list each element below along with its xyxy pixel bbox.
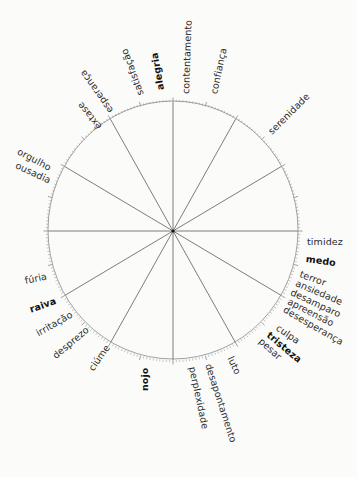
wheel-spoke: [111, 231, 174, 343]
rim-minor-tick: [60, 290, 62, 291]
rim-minor-tick: [295, 258, 297, 259]
rim-minor-tick: [137, 355, 138, 357]
rim-major-tick: [261, 322, 264, 325]
rim-minor-tick: [230, 346, 231, 348]
rim-minor-tick: [290, 277, 292, 278]
rim-minor-tick: [49, 258, 51, 259]
rim-minor-tick: [291, 274, 293, 275]
rim-minor-tick: [272, 310, 274, 311]
label-timidez: timidez: [307, 237, 343, 247]
wheel-spoke: [111, 119, 174, 231]
rim-minor-tick: [112, 344, 113, 346]
rim-minor-tick: [215, 353, 216, 355]
rim-minor-tick: [247, 335, 248, 337]
rim-minor-tick: [107, 341, 108, 343]
rim-minor-tick: [98, 335, 99, 337]
wheel-spoke: [173, 231, 236, 343]
rim-minor-tick: [76, 315, 78, 316]
rim-major-tick: [140, 356, 141, 360]
rim-minor-tick: [74, 312, 76, 313]
rim-major-tick: [281, 296, 285, 298]
rim-minor-tick: [66, 301, 68, 302]
rim-minor-tick: [212, 354, 213, 356]
rim-minor-tick: [54, 277, 56, 278]
rim-minor-tick: [274, 307, 276, 308]
wheel-spoke: [173, 231, 281, 296]
rim-minor-tick: [70, 307, 72, 308]
rim-minor-tick: [295, 261, 297, 262]
rim-minor-tick: [93, 331, 94, 333]
rim-minor-tick: [238, 341, 239, 343]
rim-minor-tick: [221, 350, 222, 352]
rim-minor-tick: [127, 351, 128, 353]
rim-minor-tick: [124, 350, 125, 352]
rim-minor-tick: [264, 320, 266, 322]
rim-minor-tick: [218, 351, 219, 353]
wheel-spoke: [173, 167, 281, 232]
rim-minor-tick: [224, 349, 225, 351]
rim-minor-tick: [72, 310, 74, 311]
rim-minor-tick: [131, 353, 132, 355]
rim-minor-tick: [287, 284, 289, 285]
rim-minor-tick: [254, 329, 255, 331]
rim-minor-tick: [244, 337, 245, 339]
rim-minor-tick: [101, 337, 102, 339]
rim-minor-tick: [209, 355, 210, 357]
rim-major-tick: [61, 296, 65, 298]
rim-minor-tick: [252, 331, 253, 333]
rim-minor-tick: [257, 327, 259, 329]
rim-minor-tick: [143, 356, 144, 358]
rim-minor-tick: [115, 346, 116, 348]
rim-minor-tick: [53, 274, 55, 275]
wheel-spoke: [65, 231, 173, 296]
rim-minor-tick: [68, 304, 70, 305]
rim-minor-tick: [96, 333, 97, 335]
rim-minor-tick: [61, 293, 63, 294]
rim-minor-tick: [233, 344, 234, 346]
wheel-spoke: [173, 119, 236, 231]
rim-minor-tick: [293, 268, 295, 269]
rim-minor-tick: [268, 315, 270, 316]
rim-minor-tick: [284, 290, 286, 291]
rim-minor-tick: [292, 271, 294, 272]
rim-minor-tick: [289, 280, 291, 281]
rim-minor-tick: [118, 347, 119, 349]
rim-major-tick: [236, 343, 238, 347]
rim-major-tick: [205, 356, 206, 360]
rim-minor-tick: [90, 329, 91, 331]
rim-minor-tick: [276, 304, 278, 305]
wheel-spoke: [65, 167, 173, 232]
rim-minor-tick: [270, 312, 272, 313]
rim-minor-tick: [266, 317, 268, 319]
wheel-center-dot: [171, 229, 174, 232]
rim-minor-tick: [51, 268, 53, 269]
rim-minor-tick: [134, 354, 135, 356]
rim-minor-tick: [57, 284, 59, 285]
rim-minor-tick: [56, 280, 58, 281]
rim-minor-tick: [241, 339, 242, 341]
rim-minor-tick: [259, 325, 261, 327]
rim-major-tick: [294, 264, 298, 265]
rim-minor-tick: [58, 287, 60, 288]
rim-minor-tick: [227, 347, 228, 349]
rim-minor-tick: [283, 293, 285, 294]
rim-major-tick: [48, 264, 52, 265]
rim-minor-tick: [249, 333, 250, 335]
rim-minor-tick: [81, 320, 83, 322]
rim-minor-tick: [104, 339, 105, 341]
rim-minor-tick: [79, 317, 81, 319]
rim-minor-tick: [52, 271, 54, 272]
rim-minor-tick: [65, 298, 67, 299]
rim-minor-tick: [278, 301, 280, 302]
rim-minor-tick: [121, 349, 122, 351]
label-nojo: nojo: [140, 368, 150, 391]
rim-minor-tick: [286, 287, 288, 288]
rim-minor-tick: [280, 298, 282, 299]
rim-minor-tick: [49, 261, 51, 262]
emotion-wheel: [0, 0, 357, 477]
rim-minor-tick: [202, 356, 203, 358]
